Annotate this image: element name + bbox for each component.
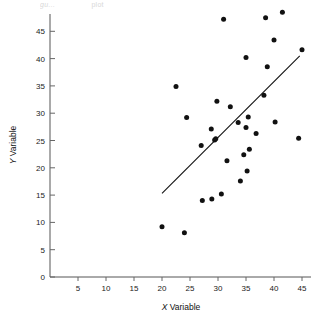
y-tick-label: 30: [36, 109, 45, 118]
data-point: [241, 152, 246, 157]
data-point: [261, 93, 266, 98]
y-axis-ticks: 051015202530354045: [36, 27, 55, 282]
x-tick-label: 15: [130, 284, 139, 293]
x-tick-label: 35: [242, 284, 251, 293]
data-point: [273, 119, 278, 124]
x-axis-title-word: Variable: [167, 302, 200, 312]
data-point: [263, 15, 268, 20]
y-axis-title: Y Variable: [8, 125, 18, 164]
data-point: [199, 143, 204, 148]
data-point: [244, 125, 249, 130]
regression-line-group: [162, 56, 300, 194]
y-tick-label: 15: [36, 191, 45, 200]
data-point: [200, 198, 205, 203]
data-point: [247, 147, 252, 152]
data-point: [174, 84, 179, 89]
data-point: [245, 169, 250, 174]
data-point: [280, 10, 285, 15]
data-point: [160, 224, 165, 229]
x-tick-label: 45: [298, 284, 307, 293]
data-point: [224, 158, 229, 163]
y-tick-label: 0: [41, 273, 46, 282]
x-tick-label: 20: [158, 284, 167, 293]
data-point: [300, 47, 305, 52]
x-tick-label: 40: [270, 284, 279, 293]
x-tick-label: 10: [102, 284, 111, 293]
data-point: [254, 131, 259, 136]
data-point: [209, 127, 214, 132]
y-tick-label: 10: [36, 218, 45, 227]
y-tick-label: 40: [36, 55, 45, 64]
data-point: [184, 115, 189, 120]
y-tick-label: 35: [36, 82, 45, 91]
data-point: [244, 55, 249, 60]
data-point: [272, 38, 277, 43]
data-point: [182, 230, 187, 235]
data-points-group: [160, 10, 305, 236]
data-point: [221, 17, 226, 22]
plot-canvas: 51015202530354045 051015202530354045 X V…: [0, 0, 323, 316]
y-tick-label: 20: [36, 164, 45, 173]
scatter-plot-figure: gu... plot 51015202530354045 05101520253…: [0, 0, 323, 316]
x-tick-label: 30: [214, 284, 223, 293]
data-point: [238, 178, 243, 183]
data-point: [209, 196, 214, 201]
x-tick-label: 25: [186, 284, 195, 293]
data-point: [246, 115, 251, 120]
x-axis-ticks: 51015202530354045: [76, 277, 307, 293]
y-tick-label: 45: [36, 27, 45, 36]
regression-line: [162, 56, 300, 194]
data-point: [213, 136, 218, 141]
y-axis-title-word: Variable: [8, 125, 18, 158]
x-tick-label: 5: [76, 284, 81, 293]
axes-group: [50, 14, 311, 277]
data-point: [228, 104, 233, 109]
data-point: [236, 120, 241, 125]
data-point: [219, 192, 224, 197]
data-point: [265, 64, 270, 69]
y-tick-label: 5: [41, 246, 46, 255]
data-point: [214, 99, 219, 104]
x-axis-title: X Variable: [161, 302, 201, 312]
y-tick-label: 25: [36, 137, 45, 146]
data-point: [296, 136, 301, 141]
